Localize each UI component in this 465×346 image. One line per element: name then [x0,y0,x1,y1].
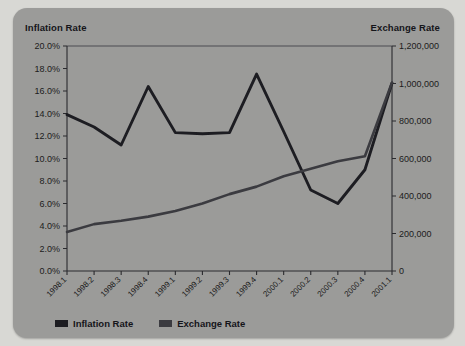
legend-label: Exchange Rate [177,318,245,329]
left-value-axis: 0.0%2.0%4.0%6.0%8.0%10.0%12.0%14.0%16.0%… [34,41,67,276]
svg-text:4.0%: 4.0% [39,221,60,231]
svg-text:1998.3: 1998.3 [99,275,123,299]
category-axis: 1998.11998.21998.31998.41999.11999.21999… [45,271,394,299]
svg-text:0: 0 [399,266,404,276]
svg-text:1,000,000: 1,000,000 [399,79,439,89]
svg-text:600,000: 600,000 [399,154,432,164]
svg-text:2000.1: 2000.1 [261,275,285,299]
svg-text:8.0%: 8.0% [39,176,60,186]
svg-text:14.0%: 14.0% [34,109,60,119]
svg-text:200,000: 200,000 [399,229,432,239]
plot-area: 0.0%2.0%4.0%6.0%8.0%10.0%12.0%14.0%16.0%… [13,8,454,338]
legend-label: Inflation Rate [73,318,133,329]
svg-text:1998.4: 1998.4 [126,275,150,299]
svg-text:800,000: 800,000 [399,116,432,126]
svg-text:16.0%: 16.0% [34,86,60,96]
legend-item: Exchange Rate [159,318,245,329]
legend-swatch-icon [55,320,68,327]
svg-text:6.0%: 6.0% [39,199,60,209]
series-lines [67,74,392,232]
svg-text:1999.1: 1999.1 [153,275,177,299]
svg-text:1999.4: 1999.4 [234,275,258,299]
svg-text:400,000: 400,000 [399,191,432,201]
legend-swatch-icon [159,320,172,327]
svg-text:1,200,000: 1,200,000 [399,41,439,51]
svg-text:2000.2: 2000.2 [288,275,312,299]
svg-text:12.0%: 12.0% [34,131,60,141]
svg-text:2000.4: 2000.4 [343,275,367,299]
svg-text:1999.2: 1999.2 [180,275,204,299]
svg-text:2.0%: 2.0% [39,244,60,254]
svg-text:18.0%: 18.0% [34,64,60,74]
right-value-axis: 0200,000400,000600,000800,0001,000,0001,… [392,41,439,276]
svg-text:20.0%: 20.0% [34,41,60,51]
svg-text:1998.2: 1998.2 [72,275,96,299]
svg-text:1999.3: 1999.3 [207,275,231,299]
svg-text:1998.1: 1998.1 [45,275,69,299]
chart-panel: Inflation Rate Exchange Rate 0.0%2.0%4.0… [13,8,454,338]
svg-text:10.0%: 10.0% [34,154,60,164]
chart-svg: 0.0%2.0%4.0%6.0%8.0%10.0%12.0%14.0%16.0%… [13,8,454,338]
svg-text:2001.1: 2001.1 [370,275,394,299]
svg-text:0.0%: 0.0% [39,266,60,276]
svg-text:2000.3: 2000.3 [316,275,340,299]
chart-legend: Inflation Rate Exchange Rate [55,318,245,329]
legend-item: Inflation Rate [55,318,133,329]
